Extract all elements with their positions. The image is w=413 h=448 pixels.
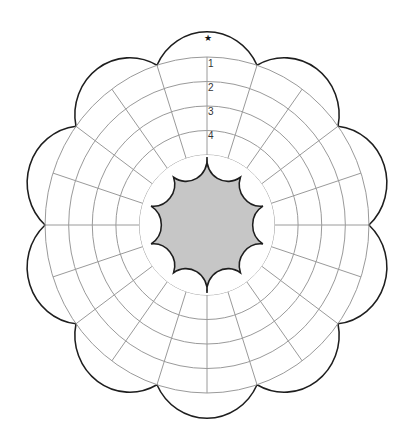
ring-label-3: 3 bbox=[208, 106, 214, 117]
ring-label-2: 2 bbox=[208, 82, 214, 93]
flower-wheel-diagram: ★ 1 2 3 4 bbox=[0, 0, 413, 448]
star-marker-icon: ★ bbox=[204, 33, 212, 43]
ring-label-4: 4 bbox=[208, 130, 214, 141]
ring-label-1: 1 bbox=[208, 58, 214, 69]
